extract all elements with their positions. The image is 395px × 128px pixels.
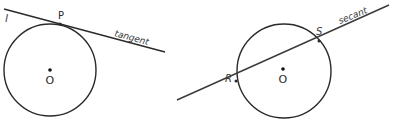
tangent-line [4, 9, 165, 52]
secant-point-r [235, 80, 238, 83]
line-label-l: l [5, 12, 8, 25]
point-label-r: R [225, 73, 232, 84]
secant-label: secant [337, 5, 369, 26]
left-center-label-o: O [46, 74, 55, 87]
tangent-label: tangent [113, 28, 150, 47]
tangent-secant-diagram: l P O tangent R S O secant [0, 0, 395, 128]
point-label-p: P [58, 10, 64, 21]
point-label-s: S [316, 26, 323, 37]
secant-point-s [318, 40, 321, 43]
right-circle [237, 24, 331, 118]
tangent-point-p [58, 22, 61, 25]
right-center-dot [281, 67, 285, 71]
left-center-dot [48, 68, 52, 72]
tangent-figure: l P O tangent [4, 9, 165, 116]
secant-figure: R S O secant [177, 5, 389, 118]
right-center-label-o: O [279, 73, 288, 86]
